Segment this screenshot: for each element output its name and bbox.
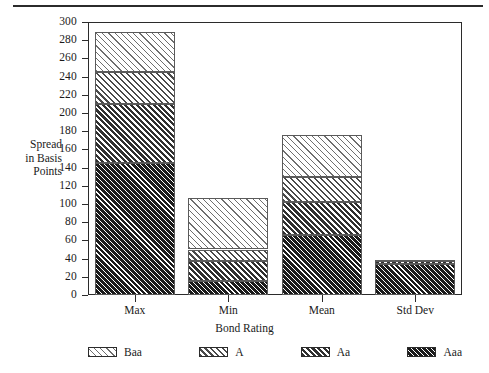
y-axis-tick	[82, 222, 88, 223]
y-axis-tick-label: 240	[17, 71, 77, 83]
legend-swatch-a	[199, 347, 228, 357]
bar-std-dev	[375, 22, 455, 295]
x-axis-tick-label-max: Max	[87, 304, 183, 317]
bar-segment-min-a	[188, 250, 268, 262]
bar-segment-max-aa	[95, 104, 175, 163]
y-axis-tick	[82, 204, 88, 205]
bar-mean	[282, 22, 362, 295]
bar-segment-min-aaa	[188, 281, 268, 295]
y-axis-tick-label: 140	[17, 162, 77, 174]
y-axis-tick-label: 280	[17, 34, 77, 46]
y-axis-tick-label: 120	[17, 180, 77, 192]
legend-item-a: A	[199, 346, 243, 358]
y-axis-tick	[82, 22, 88, 23]
y-axis-tick	[82, 259, 88, 260]
y-axis-tick	[82, 131, 88, 132]
bar-segment-std-dev-aaa	[375, 264, 455, 295]
x-axis-tick	[415, 295, 416, 302]
bar-segment-max-aaa	[95, 163, 175, 295]
y-axis-tick-label: 40	[17, 253, 77, 265]
x-axis-tick-label-mean: Mean	[274, 304, 370, 317]
bar-min	[188, 22, 268, 295]
x-axis-tick	[135, 295, 136, 302]
x-axis-tick-label-std-dev: Std Dev	[367, 304, 463, 317]
bar-segment-min-aa	[188, 261, 268, 281]
bar-segment-max-a	[95, 72, 175, 104]
legend-swatch-aaa	[407, 347, 436, 357]
y-axis-tick	[82, 40, 88, 41]
y-axis-tick	[82, 168, 88, 169]
y-axis-tick-label: 220	[17, 89, 77, 101]
legend-item-aaa: Aaa	[407, 346, 462, 358]
bar-segment-mean-aa	[282, 202, 362, 235]
bar-segment-mean-aaa	[282, 235, 362, 295]
chart-legend: BaaAAaAaa	[88, 341, 462, 363]
legend-swatch-aa	[301, 347, 330, 357]
y-axis-tick-label: 260	[17, 52, 77, 64]
bar-segment-max-baa	[95, 32, 175, 72]
bar-segment-std-dev-baa	[375, 260, 455, 262]
y-axis-tick	[82, 149, 88, 150]
bar-segment-min-baa	[188, 198, 268, 250]
y-axis-tick-label: 180	[17, 125, 77, 137]
stacked-bar-chart: Spread in Basis Points 02040608010012014…	[0, 0, 489, 373]
y-axis-tick	[82, 240, 88, 241]
legend-swatch-baa	[88, 347, 117, 357]
y-axis-tick	[82, 58, 88, 59]
legend-label-aa: Aa	[337, 346, 350, 358]
y-axis-tick-label: 0	[17, 289, 77, 301]
y-axis-tick-label: 160	[17, 143, 77, 155]
y-axis-tick	[82, 186, 88, 187]
y-axis-tick-label: 200	[17, 107, 77, 119]
legend-label-a: A	[235, 346, 243, 358]
legend-label-baa: Baa	[124, 346, 142, 358]
y-axis-tick	[82, 277, 88, 278]
x-axis-title: Bond Rating	[0, 322, 489, 334]
y-axis-tick	[82, 77, 88, 78]
y-axis-tick-label: 80	[17, 216, 77, 228]
y-axis-tick-label: 100	[17, 198, 77, 210]
x-axis-tick-label-min: Min	[180, 304, 276, 317]
x-axis-tick	[228, 295, 229, 302]
y-axis-tick	[82, 95, 88, 96]
bar-segment-mean-baa	[282, 135, 362, 177]
y-axis-tick-label: 300	[17, 16, 77, 28]
legend-item-baa: Baa	[88, 346, 142, 358]
bar-segment-mean-a	[282, 177, 362, 202]
y-axis-tick-label: 20	[17, 271, 77, 283]
bar-max	[95, 22, 175, 295]
y-axis-tick	[82, 295, 88, 296]
legend-item-aa: Aa	[301, 346, 350, 358]
x-axis-tick	[322, 295, 323, 302]
y-axis-tick-label: 60	[17, 234, 77, 246]
legend-label-aaa: Aaa	[443, 346, 462, 358]
y-axis-tick	[82, 113, 88, 114]
